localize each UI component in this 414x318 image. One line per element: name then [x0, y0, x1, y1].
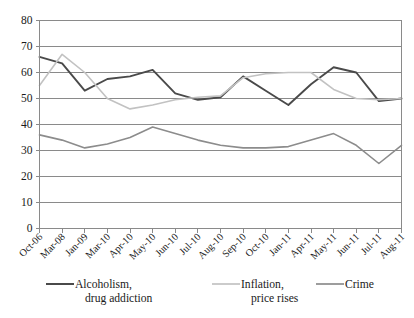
y-axis-tick-label: 70 — [21, 40, 33, 52]
legend-label-line2: drug addiction — [85, 292, 152, 305]
series-line — [40, 54, 402, 109]
plot-lines — [40, 54, 402, 163]
x-axis-tick-label: Aug-11 — [377, 231, 407, 261]
x-axis-tick-label: Jun-11 — [334, 231, 361, 258]
y-axis-labels: 01020304050607080 — [21, 14, 33, 234]
legend-label: Inflation, — [241, 278, 284, 291]
x-axis-tick-label: Jun-10 — [153, 231, 180, 258]
y-axis-tick-label: 20 — [21, 170, 33, 182]
x-axis-tick-label: Mar-10 — [83, 231, 112, 260]
y-axis-tick-label: 50 — [21, 92, 33, 104]
y-axis-tick-label: 60 — [21, 66, 33, 78]
x-axis-tick-label: Sep-10 — [220, 231, 248, 259]
x-axis-ticks — [40, 229, 402, 233]
x-axis-labels: Oct-06Mar-08Jan-09Mar-10Apr-10May-10Jun-… — [17, 231, 407, 262]
line-chart: 01020304050607080 Oct-06Mar-08Jan-09Mar-… — [0, 0, 414, 318]
legend-label: Alcoholism, — [75, 278, 132, 291]
x-axis-tick-label: Mar-08 — [38, 231, 67, 260]
y-axis-tick-label: 30 — [21, 144, 33, 156]
chart-canvas: 01020304050607080 Oct-06Mar-08Jan-09Mar-… — [0, 0, 414, 318]
chart-legend: Alcoholism,drug addictionInflation,price… — [46, 278, 374, 305]
x-axis-tick-label: Oct-10 — [243, 231, 271, 259]
y-axis-tick-label: 80 — [21, 14, 33, 26]
legend-label-line2: price rises — [251, 292, 299, 305]
x-axis-tick-label: May-11 — [308, 231, 338, 261]
y-axis-tick-label: 0 — [27, 222, 33, 234]
grid-lines — [40, 21, 402, 203]
series-line — [40, 127, 402, 163]
x-axis-tick-label: Aug-10 — [196, 231, 226, 261]
y-axis-tick-label: 10 — [21, 196, 33, 208]
y-axis-tick-label: 40 — [21, 118, 33, 130]
series-line — [40, 57, 402, 105]
legend-label: Crime — [345, 278, 374, 291]
